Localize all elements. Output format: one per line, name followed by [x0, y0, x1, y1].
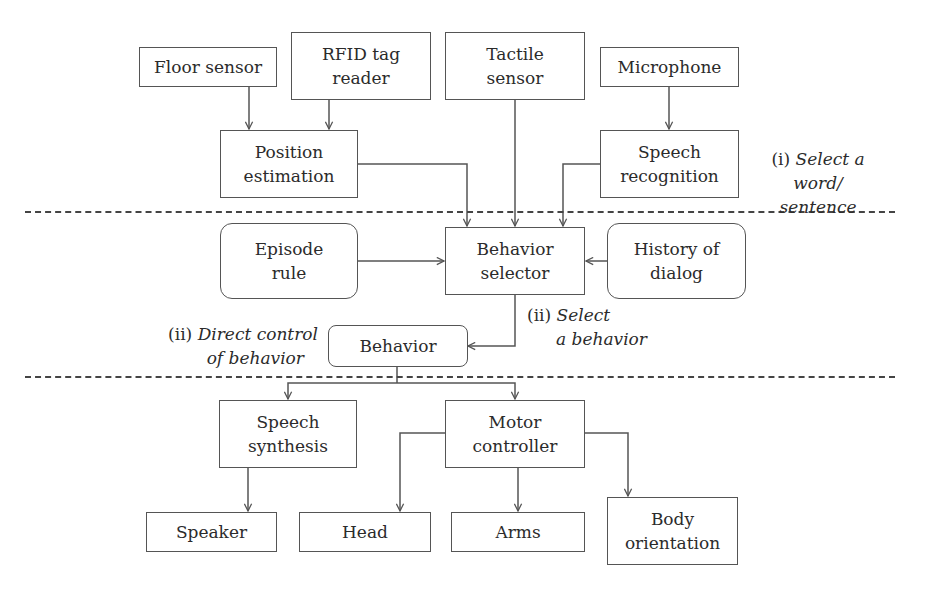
annotation-text: a behavior: [556, 329, 647, 349]
floor-sensor-node: Floor sensor: [139, 47, 277, 87]
edge-speech-recognition-to-selector: [563, 164, 600, 226]
position-estimation-node: Positionestimation: [220, 130, 358, 198]
node-label: selector: [476, 261, 553, 285]
edge-selector-to-behavior: [468, 294, 515, 346]
annotation-select-word: (i) Select a word/ sentence: [748, 147, 888, 219]
annotation-text: Direct control: [198, 324, 318, 344]
speech-synthesis-node: Speechsynthesis: [219, 400, 357, 468]
node-label: Arms: [495, 520, 540, 544]
node-label: Tactile: [486, 42, 543, 66]
annotation-direct-control: (ii) Direct control of behavior: [158, 322, 318, 370]
edge-motor-to-body: [585, 433, 628, 496]
episode-rule-node: Episoderule: [220, 223, 358, 299]
node-label: Position: [244, 140, 335, 164]
node-label: Behavior: [359, 334, 436, 358]
node-label: Episode: [255, 237, 324, 261]
node-label: Motor: [473, 410, 558, 434]
behavior-node: Behavior: [328, 325, 468, 367]
history-of-dialog-node: History ofdialog: [607, 223, 746, 299]
node-label: RFID tag: [322, 42, 400, 66]
node-label: orientation: [625, 531, 720, 555]
node-label: estimation: [244, 164, 335, 188]
motor-controller-node: Motorcontroller: [445, 400, 585, 468]
node-label: Speech: [620, 140, 719, 164]
layer-separator-bottom: [25, 376, 895, 378]
edge-behavior-to-speech-synthesis: [288, 383, 397, 399]
node-label: controller: [473, 434, 558, 458]
speaker-node: Speaker: [146, 512, 277, 552]
node-label: Speaker: [176, 520, 247, 544]
annotation-text: Select: [557, 305, 611, 325]
node-label: reader: [322, 66, 400, 90]
annotation-prefix: (ii): [168, 324, 198, 344]
annotation-prefix: (i): [771, 149, 795, 169]
tactile-sensor-node: Tactilesensor: [445, 32, 585, 100]
annotation-select-behavior: (ii) Select a behavior: [527, 303, 687, 351]
edge-position-to-selector: [358, 164, 467, 226]
node-label: rule: [255, 261, 324, 285]
edge-motor-to-head: [400, 433, 445, 511]
node-label: Speech: [248, 410, 328, 434]
body-orientation-node: Bodyorientation: [607, 497, 738, 565]
node-label: Body: [625, 507, 720, 531]
node-label: synthesis: [248, 434, 328, 458]
node-label: Microphone: [618, 55, 722, 79]
microphone-node: Microphone: [600, 47, 739, 87]
node-label: sensor: [486, 66, 543, 90]
annotation-text: sentence: [779, 197, 856, 217]
speech-recognition-node: Speechrecognition: [600, 130, 739, 198]
annotation-text: of behavior: [207, 348, 304, 368]
node-label: recognition: [620, 164, 719, 188]
node-label: Head: [342, 520, 388, 544]
edge-behavior-to-motor: [397, 383, 515, 399]
node-label: Behavior: [476, 237, 553, 261]
rfid-reader-node: RFID tagreader: [291, 32, 431, 100]
arms-node: Arms: [451, 512, 585, 552]
head-node: Head: [299, 512, 431, 552]
annotation-prefix: (ii): [527, 305, 557, 325]
node-label: Floor sensor: [154, 55, 262, 79]
node-label: History of: [634, 237, 720, 261]
behavior-selector-node: Behaviorselector: [445, 227, 585, 295]
node-label: dialog: [634, 261, 720, 285]
annotation-text: Select a word/: [793, 149, 864, 193]
